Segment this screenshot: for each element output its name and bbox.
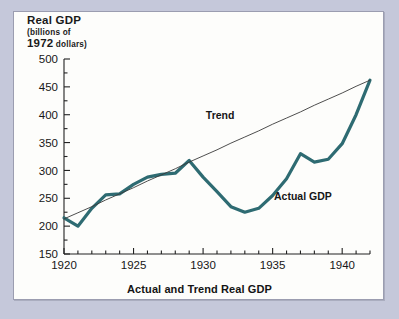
series-line-actual-gdp <box>64 80 370 226</box>
x-axis-tick-label: 1920 <box>51 259 77 271</box>
y-axis-tick-label: 450 <box>39 81 58 93</box>
x-axis-tick-label: 1935 <box>260 259 286 271</box>
y-axis-tick-label: 350 <box>39 137 58 149</box>
y-axis: 150200250300350400450500 <box>39 53 70 260</box>
data-series <box>64 80 370 226</box>
y-axis-tick-label: 200 <box>39 220 58 232</box>
figure-container: Real GDP (billions of 1972 dollars) 1502… <box>0 0 399 319</box>
y-axis-tick-label: 300 <box>39 165 58 177</box>
y-axis-tick-label: 500 <box>39 53 58 65</box>
figure-caption: Actual and Trend Real GDP <box>0 283 399 295</box>
x-axis-tick-label: 1925 <box>121 259 147 271</box>
y-axis-tick-label: 400 <box>39 109 58 121</box>
series-annotations: Actual GDPTrend <box>206 109 332 202</box>
x-axis: 19201925193019351940 <box>51 248 370 271</box>
series-label-actual-gdp: Actual GDP <box>274 190 332 202</box>
chart-svg: 150200250300350400450500 192019251930193… <box>13 11 384 300</box>
x-axis-tick-label: 1930 <box>190 259 216 271</box>
series-label-trend: Trend <box>206 109 235 121</box>
y-axis-tick-label: 250 <box>39 192 58 204</box>
x-axis-tick-label: 1940 <box>329 259 355 271</box>
